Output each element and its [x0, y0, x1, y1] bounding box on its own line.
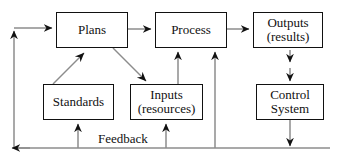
edge-plans-to-inputs — [113, 48, 146, 81]
node-plans[interactable]: Plans — [56, 12, 128, 48]
node-standards[interactable]: Standards — [43, 84, 114, 120]
flowchart-diagram: Plans Process Outputs (results) Standard… — [0, 0, 340, 159]
node-plans-label-1: Plans — [78, 23, 106, 37]
node-control-system[interactable]: Control System — [256, 84, 324, 120]
node-outputs-label-1: Outputs — [267, 16, 308, 30]
node-process-label-1: Process — [171, 23, 211, 37]
edge-label-feedback: Feedback — [96, 131, 150, 147]
node-control-system-label-2: System — [271, 102, 309, 116]
node-inputs-label-1: Inputs — [150, 88, 183, 102]
node-standards-label-1: Standards — [53, 95, 104, 109]
node-inputs[interactable]: Inputs (resources) — [130, 84, 203, 120]
edge-standards-to-plans — [53, 53, 84, 84]
node-outputs-label-2: (results) — [267, 30, 310, 44]
node-control-system-label-1: Control — [270, 88, 310, 102]
node-process[interactable]: Process — [155, 12, 227, 48]
node-inputs-label-2: (resources) — [138, 102, 196, 116]
node-outputs[interactable]: Outputs (results) — [253, 12, 323, 48]
